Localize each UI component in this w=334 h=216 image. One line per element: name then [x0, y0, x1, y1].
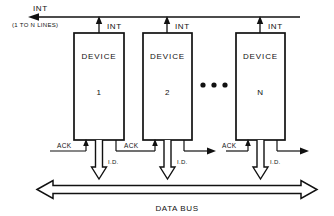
- int-bus-label: INT: [33, 4, 48, 13]
- device-2-number: 2: [165, 88, 170, 97]
- device-1-id-label: I.D.: [108, 159, 119, 165]
- devices-ellipsis: [200, 82, 227, 87]
- device-1-name: DEVICE: [81, 52, 116, 61]
- device-2-id-arrow: [160, 140, 175, 179]
- device-1-number: 1: [97, 88, 102, 97]
- data-bus-label: DATA BUS: [155, 204, 198, 213]
- device-n-id-label: I.D.: [270, 159, 281, 165]
- device-n-id-arrow: [253, 140, 268, 179]
- data-bus-arrow[interactable]: [37, 181, 317, 199]
- device-1-ack-label: ACK: [57, 142, 72, 149]
- device-n-box[interactable]: [236, 33, 285, 140]
- device-2-box[interactable]: [143, 33, 192, 140]
- device-1-int-label: INT: [107, 22, 122, 31]
- device-n-int-label: INT: [268, 22, 283, 31]
- device-n-ack-out-arrowhead: [300, 148, 309, 155]
- device-1-id-arrow: [92, 140, 107, 179]
- device-n-ack-label: ACK: [222, 142, 237, 149]
- device-n-group[interactable]: INT DEVICE N ACK I.D.: [222, 16, 309, 179]
- ellipsis-dot-3: [222, 82, 227, 87]
- ellipsis-dot-2: [211, 82, 216, 87]
- ellipsis-dot-1: [200, 82, 205, 87]
- device-2-id-label: I.D.: [177, 159, 188, 165]
- device-2-int-label: INT: [175, 22, 190, 31]
- device-2-ack-label: ACK: [124, 142, 139, 149]
- device-2-name: DEVICE: [150, 52, 185, 61]
- device-2-group[interactable]: INT DEVICE 2 ACK I.D.: [124, 16, 216, 179]
- top-int-bus-group: INT (1 TO N LINES): [12, 4, 300, 28]
- daisy-chain-interrupt-diagram: INT (1 TO N LINES) INT DEVICE 1 ACK: [0, 0, 334, 216]
- device-2-ack-out-arrowhead: [207, 148, 216, 155]
- device-1-group[interactable]: INT DEVICE 1 ACK I.D.: [50, 16, 139, 179]
- diagram-canvas: INT (1 TO N LINES) INT DEVICE 1 ACK: [0, 0, 334, 216]
- device-n-number: N: [257, 88, 263, 97]
- int-lines-note: (1 TO N LINES): [12, 22, 58, 28]
- data-bus-group[interactable]: DATA BUS: [37, 181, 317, 214]
- device-n-name: DEVICE: [243, 52, 278, 61]
- int-bus-arrowhead: [28, 13, 39, 21]
- device-1-box[interactable]: [74, 33, 124, 140]
